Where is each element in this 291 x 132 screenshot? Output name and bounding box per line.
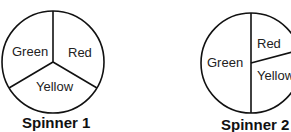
spinner-1: Green Red Yellow Spinner 1 bbox=[2, 11, 104, 131]
spinner-2-divider-red-yellow bbox=[251, 50, 291, 63]
spinner-2-caption: Spinner 2 bbox=[221, 116, 289, 132]
spinner-2-label-green: Green bbox=[207, 55, 243, 70]
spinner-2-label-red: Red bbox=[257, 36, 281, 51]
spinner-2: Green Red Yellow Spinner 2 bbox=[201, 13, 291, 132]
spinner-1-label-green: Green bbox=[12, 44, 48, 59]
spinner-1-label-red: Red bbox=[68, 45, 92, 60]
spinner-1-label-yellow: Yellow bbox=[36, 79, 74, 94]
spinner-1-caption: Spinner 1 bbox=[22, 114, 90, 131]
spinner-2-label-yellow: Yellow bbox=[257, 68, 291, 83]
spinners-diagram: Green Red Yellow Spinner 1 Green Red Yel… bbox=[0, 0, 291, 132]
